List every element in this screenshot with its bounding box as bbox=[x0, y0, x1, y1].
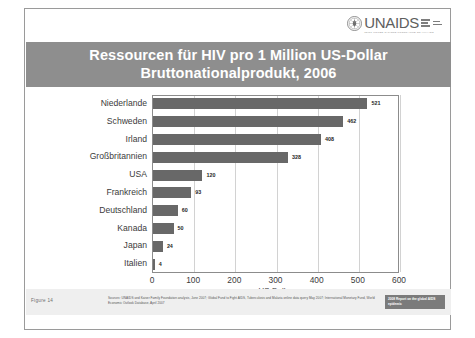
category-label: USA bbox=[27, 166, 147, 184]
bar-row: Irland408 bbox=[153, 131, 334, 149]
bar-value-label: 120 bbox=[206, 170, 215, 181]
x-tick-label: 300 bbox=[269, 275, 283, 285]
title-line-1: Ressourcen für HIV pro 1 Million US-Doll… bbox=[89, 47, 387, 65]
bar-value-label: 50 bbox=[178, 223, 184, 234]
chart-title-band: Ressourcen für HIV pro 1 Million US-Doll… bbox=[26, 42, 451, 87]
slide-footer: Figure 14 Sources: UNAIDS and Kaiser Fam… bbox=[26, 289, 451, 315]
bar bbox=[153, 134, 321, 145]
bar bbox=[153, 259, 155, 270]
bar bbox=[153, 116, 343, 127]
x-tick-label: 600 bbox=[392, 275, 406, 285]
bar-value-label: 93 bbox=[195, 187, 201, 198]
bar-value-label: 4 bbox=[159, 259, 162, 270]
bar bbox=[153, 170, 202, 181]
slide-frame: UNAIDS JOINT UNITED NATIONS PROGRAMME ON… bbox=[24, 8, 451, 330]
title-line-2: Bruttonationalprodukt, 2006 bbox=[140, 65, 336, 83]
bar bbox=[153, 187, 191, 198]
x-tick-label: 200 bbox=[227, 275, 241, 285]
logo-wordmark: UNAIDS bbox=[364, 15, 419, 30]
logo-tagline: JOINT UNITED NATIONS PROGRAMME ON HIV/AI… bbox=[364, 31, 442, 34]
figure-label: Figure 14 bbox=[31, 298, 53, 303]
report-badge: 2008 Report on the global AIDS epidemic bbox=[385, 295, 445, 309]
bar-value-label: 328 bbox=[292, 152, 301, 163]
bar bbox=[153, 241, 163, 252]
bar-rows: Niederlande521Schweden462Irland408Großbr… bbox=[153, 95, 399, 272]
bar bbox=[153, 152, 288, 163]
x-tick-label: 500 bbox=[351, 275, 365, 285]
plot-area: Niederlande521Schweden462Irland408Großbr… bbox=[152, 95, 399, 273]
logo-bars-icon bbox=[421, 18, 430, 27]
category-label: Schweden bbox=[27, 113, 147, 131]
bar bbox=[153, 205, 178, 216]
bar bbox=[153, 223, 174, 234]
bar-row: Deutschland60 bbox=[153, 202, 188, 220]
category-label: Japan bbox=[27, 237, 147, 255]
x-tick-label: 0 bbox=[150, 275, 155, 285]
x-tick-label: 100 bbox=[186, 275, 200, 285]
source-note: Sources: UNAIDS and Kaiser Family Founda… bbox=[108, 296, 380, 305]
category-label: Irland bbox=[27, 131, 147, 149]
bar-row: Italien4 bbox=[153, 255, 162, 273]
bar-value-label: 24 bbox=[167, 241, 173, 252]
category-label: Niederlande bbox=[27, 95, 147, 113]
bar-row: Japan24 bbox=[153, 237, 173, 255]
bar-row: Niederlande521 bbox=[153, 95, 380, 113]
logo-bars-secondary-icon bbox=[433, 20, 442, 26]
category-label: Kanada bbox=[27, 220, 147, 238]
unaids-logo: UNAIDS JOINT UNITED NATIONS PROGRAMME ON… bbox=[347, 15, 442, 41]
bar-row: Frankreich93 bbox=[153, 184, 201, 202]
bar-row: USA120 bbox=[153, 166, 215, 184]
bar-chart: Niederlande521Schweden462Irland408Großbr… bbox=[25, 89, 452, 289]
who-emblem-icon bbox=[347, 16, 362, 31]
category-label: Frankreich bbox=[27, 184, 147, 202]
bar-row: Schweden462 bbox=[153, 113, 356, 131]
bar-row: Großbritannien328 bbox=[153, 148, 301, 166]
bar-value-label: 60 bbox=[182, 205, 188, 216]
x-tick-label: 400 bbox=[310, 275, 324, 285]
bar bbox=[153, 98, 367, 109]
bar-row: Kanada50 bbox=[153, 220, 184, 238]
bar-value-label: 462 bbox=[347, 116, 356, 127]
bar-value-label: 521 bbox=[371, 98, 380, 109]
category-label: Großbritannien bbox=[27, 148, 147, 166]
category-label: Italien bbox=[27, 255, 147, 273]
bar-value-label: 408 bbox=[325, 134, 334, 145]
category-label: Deutschland bbox=[27, 202, 147, 220]
gridline bbox=[400, 95, 401, 272]
